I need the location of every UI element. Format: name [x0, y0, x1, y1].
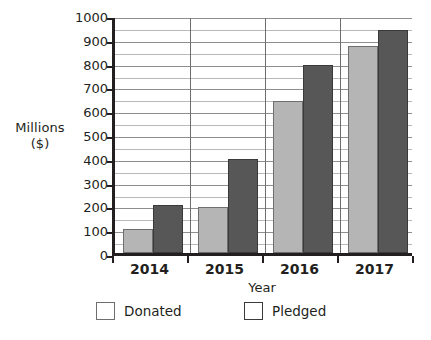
y-tick-label-700: 700	[62, 82, 108, 95]
legend-item-donated[interactable]: Donated	[96, 302, 182, 320]
legend-swatch-pledged-icon	[244, 302, 263, 320]
bar-donated-2015[interactable]	[198, 207, 228, 253]
y-tick-900	[107, 42, 114, 44]
y-tick-label-1000: 1000	[62, 11, 108, 24]
group-separator	[265, 18, 266, 253]
bar-pledged-2014[interactable]	[153, 205, 183, 253]
chart-legend: Donated Pledged	[96, 302, 376, 328]
x-tick-label-2016: 2016	[262, 260, 337, 278]
x-tick-label-2015: 2015	[187, 260, 262, 278]
y-tick-label-200: 200	[62, 201, 108, 214]
bar-pledged-2015[interactable]	[228, 159, 258, 253]
y-tick-label-100: 100	[62, 225, 108, 238]
gridline-minor	[115, 30, 412, 31]
bar-donated-2017[interactable]	[348, 46, 378, 253]
y-tick-label-800: 800	[62, 59, 108, 72]
legend-label-donated: Donated	[124, 302, 182, 320]
y-tick-label-500: 500	[62, 130, 108, 143]
y-tick-1000	[107, 18, 114, 20]
x-tick-label-2014: 2014	[112, 260, 187, 278]
y-tick-400	[107, 161, 114, 163]
bar-pledged-2017[interactable]	[378, 30, 408, 253]
y-tick-label-300: 300	[62, 178, 108, 191]
x-tick	[412, 256, 414, 263]
x-axis-title: Year	[112, 280, 412, 295]
legend-swatch-donated-icon	[96, 302, 115, 320]
y-tick-500	[107, 137, 114, 139]
y-tick-label-600: 600	[62, 106, 108, 119]
y-axis-tick-labels: 01002003004005006007008009001000	[60, 18, 108, 256]
group-separator	[190, 18, 191, 253]
plot-area	[112, 18, 412, 256]
bar-donated-2014[interactable]	[123, 229, 153, 253]
bar-pledged-2016[interactable]	[303, 65, 333, 253]
x-axis-tick-labels: 2014201520162017	[112, 260, 412, 280]
y-tick-label-400: 400	[62, 154, 108, 167]
plot-inner	[115, 18, 412, 253]
y-tick-label-900: 900	[62, 35, 108, 48]
y-tick-600	[107, 113, 114, 115]
x-tick-label-2017: 2017	[337, 260, 412, 278]
bar-chart: Millions ($) 010020030040050060070080090…	[0, 0, 431, 340]
gridline-major	[115, 18, 412, 19]
y-tick-700	[107, 89, 114, 91]
y-tick-label-0: 0	[62, 249, 108, 262]
y-tick-100	[107, 232, 114, 234]
legend-label-pledged: Pledged	[272, 302, 326, 320]
gridline-major	[115, 42, 412, 43]
y-tick-200	[107, 208, 114, 210]
bar-donated-2016[interactable]	[273, 101, 303, 253]
group-separator	[340, 18, 341, 253]
y-tick-800	[107, 66, 114, 68]
y-tick-300	[107, 185, 114, 187]
legend-item-pledged[interactable]: Pledged	[244, 302, 326, 320]
